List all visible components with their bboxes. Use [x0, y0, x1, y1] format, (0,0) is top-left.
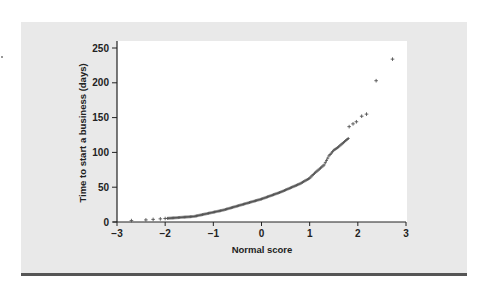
x-tick-label: −2 [159, 228, 171, 239]
x-tick-label: 2 [355, 228, 361, 239]
y-tick-label: 150 [92, 112, 109, 123]
x-tick-label: 0 [259, 228, 265, 239]
x-tick-label: 3 [403, 228, 409, 239]
y-tick-label: 50 [98, 182, 110, 193]
plot-area [117, 41, 407, 222]
x-tick-label: 1 [307, 228, 313, 239]
x-tick-label: −1 [208, 228, 220, 239]
x-tick-label: −3 [111, 228, 123, 239]
y-axis-title: Time to start a business (days) [77, 63, 88, 202]
y-tick-label: 200 [92, 77, 109, 88]
y-tick-label: 100 [92, 147, 109, 158]
y-tick-label: 0 [103, 217, 109, 228]
y-tick-label: 250 [92, 43, 109, 54]
x-axis-title: Normal score [232, 244, 293, 255]
normal-quantile-plot: −3−2−10123050100150200250 Normal score T… [0, 0, 491, 294]
